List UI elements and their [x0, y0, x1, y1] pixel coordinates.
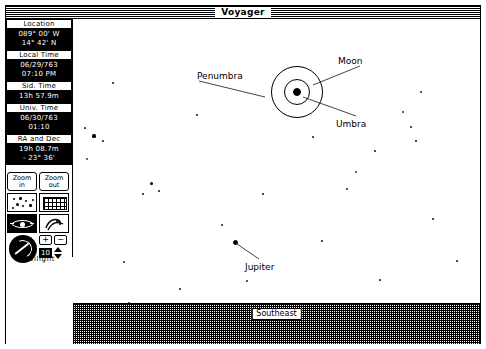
- universal-date-value: 06/30/763: [7, 114, 71, 123]
- star[interactable]: [112, 82, 113, 83]
- star[interactable]: [221, 224, 222, 225]
- location-longitude: 089° 00' W: [7, 30, 71, 39]
- jupiter[interactable]: [233, 240, 238, 245]
- star[interactable]: [150, 182, 153, 185]
- local-date-value: 06/29/763: [7, 61, 71, 70]
- panel-location: Location 089° 00' W 14° 42' N: [6, 19, 72, 50]
- panel-local-time-header: Local Time: [6, 50, 72, 59]
- star[interactable]: [196, 114, 197, 115]
- rotate-sky-icon[interactable]: [39, 214, 69, 233]
- star[interactable]: [379, 279, 380, 280]
- zoom-in-label-line2: in: [19, 182, 25, 189]
- desktop-background-strip: [0, 344, 486, 349]
- increase-time-button[interactable]: +: [39, 235, 52, 245]
- right-ascension-value: 19h 08.7m: [7, 145, 71, 154]
- tool-row-display: [7, 193, 72, 212]
- panel-sidereal-time-header: Sid. Time: [6, 81, 72, 90]
- star[interactable]: [262, 193, 263, 194]
- decrease-time-button[interactable]: −: [54, 235, 67, 245]
- local-time-value: 07:10 PM: [7, 70, 71, 79]
- panel-location-body[interactable]: 089° 00' W 14° 42' N: [6, 28, 72, 50]
- panel-ra-dec-header: RA and Dec: [6, 134, 72, 143]
- coordinate-grid-glyph: [43, 197, 67, 210]
- tool-row-zoom: Zoom in Zoom out: [7, 172, 72, 191]
- window-titlebar[interactable]: Voyager: [6, 6, 480, 20]
- panel-universal-time-header: Univ. Time: [6, 103, 72, 112]
- voyager-window: Voyager Location 089° 00' W 14° 42' N Lo…: [5, 5, 481, 344]
- horizon-tick-left: [10, 223, 14, 224]
- star[interactable]: [123, 261, 125, 263]
- star[interactable]: [420, 91, 421, 92]
- star[interactable]: [374, 150, 375, 151]
- compass-direction-label: Southeast: [251, 308, 301, 320]
- zoom-out-button[interactable]: Zoom out: [39, 172, 69, 191]
- star[interactable]: [92, 134, 95, 137]
- tool-row-view: [7, 214, 72, 233]
- window-client-area: Location 089° 00' W 14° 42' N Local Time…: [6, 19, 480, 344]
- annotation-leader-lines: [73, 19, 480, 344]
- window-title: Voyager: [215, 7, 271, 18]
- sidereal-time-value: 13h 57.9m: [7, 92, 71, 101]
- stepper-up-arrow: [54, 247, 62, 252]
- star[interactable]: [102, 140, 103, 141]
- penumbra-ring[interactable]: [271, 66, 323, 118]
- panel-local-time-body[interactable]: 06/29/763 07:10 PM: [6, 59, 72, 81]
- star[interactable]: [158, 190, 159, 191]
- coordinate-grid-icon[interactable]: [39, 193, 69, 212]
- penumbra-label: Penumbra: [197, 71, 243, 81]
- star[interactable]: [456, 260, 457, 261]
- umbra-label: Umbra: [336, 119, 366, 129]
- rotate-sky-glyph: [45, 217, 65, 231]
- panel-universal-time: Univ. Time 06/30/763 01:10: [6, 103, 72, 134]
- star[interactable]: [355, 171, 357, 173]
- star[interactable]: [86, 158, 88, 160]
- panel-ra-dec: RA and Dec 19h 08.7m - 23° 36': [6, 134, 72, 165]
- star-field-icon[interactable]: [7, 193, 37, 212]
- star[interactable]: [346, 188, 347, 189]
- tool-palette: Zoom in Zoom out: [7, 172, 72, 265]
- panel-local-time: Local Time 06/29/763 07:10 PM: [6, 50, 72, 81]
- sky-view[interactable]: PenumbraMoonUmbraJupiter Southeast: [73, 19, 480, 344]
- time-step-row-1: + −: [39, 235, 71, 245]
- star[interactable]: [312, 136, 313, 137]
- star[interactable]: [415, 140, 416, 141]
- star[interactable]: [142, 193, 143, 194]
- location-latitude: 14° 42' N: [7, 39, 71, 48]
- star[interactable]: [321, 240, 322, 241]
- screenshot-root: Voyager Location 089° 00' W 14° 42' N Lo…: [0, 0, 486, 349]
- jupiter-label: Jupiter: [245, 262, 274, 272]
- star[interactable]: [84, 127, 85, 128]
- twilight-label: Twilight: [6, 255, 73, 263]
- star[interactable]: [179, 288, 181, 290]
- info-sidebar: Location 089° 00' W 14° 42' N Local Time…: [6, 19, 73, 257]
- star[interactable]: [432, 218, 433, 219]
- zoom-out-label-line2: out: [49, 182, 60, 189]
- star-field-glyph: [8, 194, 36, 211]
- universal-time-value: 01:10: [7, 123, 71, 132]
- panel-sidereal-time: Sid. Time 13h 57.9m: [6, 81, 72, 103]
- horizon-eye-icon[interactable]: [7, 214, 37, 233]
- horizon-tick-right: [30, 223, 34, 224]
- moon-label: Moon: [338, 56, 362, 66]
- panel-ra-dec-body[interactable]: 19h 08.7m - 23° 36': [6, 143, 72, 165]
- horizon-eye-pupil: [20, 222, 25, 227]
- panel-location-header: Location: [6, 19, 72, 28]
- declination-value: - 23° 36': [7, 154, 71, 163]
- star[interactable]: [246, 280, 247, 281]
- panel-universal-time-body[interactable]: 06/30/763 01:10: [6, 112, 72, 134]
- panel-sidereal-time-body[interactable]: 13h 57.9m: [6, 90, 72, 103]
- star[interactable]: [410, 126, 411, 127]
- zoom-in-button[interactable]: Zoom in: [7, 172, 37, 191]
- star[interactable]: [402, 111, 404, 113]
